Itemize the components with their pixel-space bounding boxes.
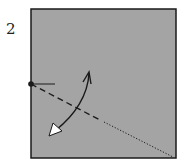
- origami-diagram: [0, 0, 189, 165]
- reference-point-dot: [28, 81, 34, 87]
